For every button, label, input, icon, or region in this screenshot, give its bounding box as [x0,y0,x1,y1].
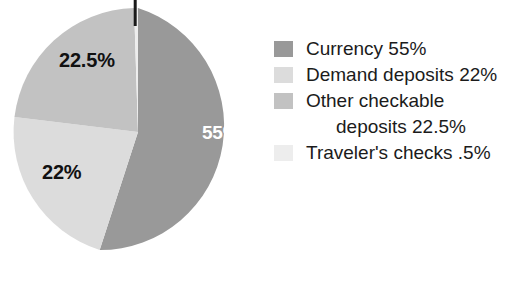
legend-label-demand-deposits: Demand deposits 22% [306,62,497,87]
legend-item-demand-deposits: Demand deposits 22% [272,62,513,88]
pie-label-currency: 55% [202,123,239,142]
pie-chart-graphic: 22.5% 22% 55% [0,0,272,281]
legend-swatch-other-checkable-deposits [274,93,293,109]
legend-label-currency: Currency 55% [306,36,426,61]
legend-label-other-checkable-deposits-continued: deposits 22.5% [336,114,466,139]
legend-item-travelers-checks: Traveler's checks .5% [272,140,513,166]
legend-swatch-travelers-checks [274,145,293,161]
chart-legend: Currency 55% Demand deposits 22% Other c… [272,36,513,166]
legend-label-travelers-checks: Traveler's checks .5% [306,140,491,165]
pie-label-other-checkable-deposits: 22.5% [59,50,115,70]
legend-item-currency: Currency 55% [272,36,513,62]
legend-swatch-currency [274,41,293,57]
pie-chart-figure: 22.5% 22% 55% Currency 55% Demand deposi… [0,0,513,281]
legend-swatch-demand-deposits [274,67,293,83]
pie-label-demand-deposits: 22% [42,162,81,182]
legend-item-other-checkable-deposits: Other checkable [272,88,513,114]
legend-label-other-checkable-deposits: Other checkable [306,88,444,113]
legend-item-other-checkable-deposits-line2: deposits 22.5% [272,114,513,140]
